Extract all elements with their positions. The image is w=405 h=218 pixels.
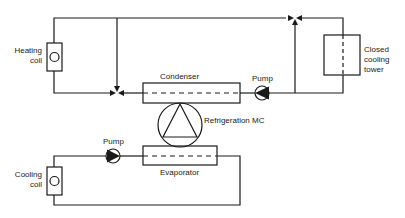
- pump-lower-label: Pump: [103, 137, 124, 147]
- cooling-tower-label-line3: tower: [364, 65, 389, 75]
- compressor: [158, 103, 202, 147]
- cooling-tower-label-line2: cooling: [364, 55, 389, 65]
- cooling-coil-symbol: [50, 177, 59, 186]
- junction-arrows: [110, 15, 302, 96]
- refrigeration-system-diagram: [0, 0, 405, 218]
- pump-upper: [255, 86, 269, 100]
- pump-lower: [106, 149, 120, 163]
- heating-coil-label: Heating coil: [4, 46, 42, 66]
- cooling-tower: [324, 35, 360, 75]
- chilled-supply-line: [54, 156, 106, 167]
- heating-coil: [47, 43, 62, 71]
- pump-upper-label: Pump: [252, 74, 273, 84]
- heating-coil-label-line1: Heating: [4, 46, 42, 56]
- evaporator-label: Evaporator: [160, 168, 199, 178]
- compressor-triangle: [163, 104, 197, 137]
- cooling-coil-label: Cooling coil: [4, 170, 42, 190]
- evaporator-outlet-line: [54, 156, 240, 205]
- cooling-coil-label-line2: coil: [4, 180, 42, 190]
- heating-coil-label-line2: coil: [4, 56, 42, 66]
- cooling-tower-label-line1: Closed: [364, 45, 389, 55]
- arrow-down-left-junction: [114, 86, 120, 92]
- arrow-right-right-junction: [288, 15, 294, 21]
- tower-return-line: [300, 18, 343, 35]
- heating-return-line: [54, 71, 111, 93]
- arrow-right-left-junction: [110, 90, 116, 96]
- pump-outlet-line: [269, 75, 343, 93]
- cooling-coil-label-line1: Cooling: [4, 170, 42, 180]
- cooling-coil: [47, 167, 62, 195]
- cooling-tower-label: Closed cooling tower: [364, 45, 389, 75]
- condenser-label: Condenser: [160, 72, 199, 82]
- top-supply-line: [54, 18, 286, 43]
- refrigeration-mc-label: Refrigeration MC: [204, 116, 264, 126]
- arrow-left-left-junction: [118, 90, 124, 96]
- heating-coil-symbol: [50, 53, 59, 62]
- arrow-up-right-junction: [292, 19, 298, 25]
- arrow-left-right-junction: [296, 15, 302, 21]
